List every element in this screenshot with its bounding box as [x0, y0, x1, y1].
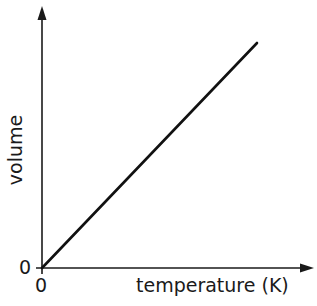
y-axis-label: volume [6, 115, 25, 185]
x-axis-label: temperature (K) [136, 276, 289, 295]
data-line [42, 43, 257, 268]
x-origin-tick-label: 0 [35, 276, 47, 295]
y-origin-tick-label: 0 [19, 258, 31, 277]
chart-canvas [0, 0, 317, 306]
y-axis-arrow-icon [38, 6, 47, 20]
x-axis-arrow-icon [300, 264, 314, 273]
